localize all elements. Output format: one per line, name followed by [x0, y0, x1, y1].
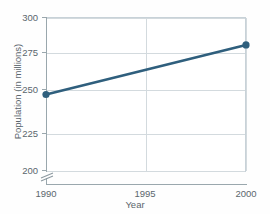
y-tickmark-275 — [42, 52, 47, 53]
y-tickmark-250 — [42, 89, 47, 90]
y-tickmark-225 — [42, 133, 47, 134]
line-chart-screenshot: 300 275 250 225 200 1990 1995 2000 Year … — [0, 0, 270, 214]
plot-area — [46, 17, 246, 172]
y-tick-label-200: 200 — [6, 165, 38, 176]
x-tick-label-1995: 1995 — [125, 188, 165, 199]
y-tickmark-300 — [42, 17, 47, 18]
y-tickmark-200 — [42, 170, 47, 171]
x-tick-label-2000: 2000 — [226, 188, 266, 199]
y-axis-line — [46, 17, 47, 172]
x-tick-label-1990: 1990 — [26, 188, 66, 199]
gridline-y-200 — [47, 171, 245, 172]
x-axis-title: Year — [0, 199, 270, 210]
y-axis-title: Population (in millions) — [12, 22, 23, 162]
gridline-x-2000 — [246, 18, 247, 171]
gridline-x-1995 — [146, 18, 147, 171]
x-axis-line — [46, 184, 247, 185]
